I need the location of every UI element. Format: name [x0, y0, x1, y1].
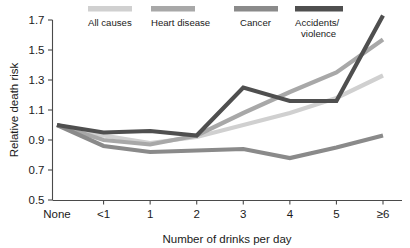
y-tick-label: 1.7	[29, 14, 45, 26]
x-tick-label: 3	[240, 208, 246, 220]
x-tick-label: None	[43, 208, 71, 220]
legend-label-3: Accidents/	[295, 17, 340, 28]
x-tick-label: 5	[333, 208, 339, 220]
legend-label-1: Heart disease	[151, 17, 210, 28]
y-tick-label: 0.7	[29, 164, 45, 176]
legend-label-3-line2: violence	[301, 28, 336, 39]
x-axis-title: Number of drinks per day	[162, 233, 291, 245]
y-tick-label: 1.3	[29, 74, 45, 86]
x-axis: None<112345≥6 Number of drinks per day	[43, 200, 402, 245]
x-tick-label: 1	[147, 208, 153, 220]
series-line-1	[57, 40, 383, 145]
y-tick-label: 0.5	[29, 194, 45, 206]
x-tick-label: ≥6	[377, 208, 390, 220]
legend-swatch-2	[234, 6, 278, 12]
chart-legend: All causes Heart disease Cancer Accident…	[88, 6, 343, 39]
x-tick-label: <1	[97, 208, 110, 220]
legend-swatch-1	[151, 6, 195, 12]
y-tick-label: 0.9	[29, 134, 45, 146]
line-chart: All causes Heart disease Cancer Accident…	[0, 0, 410, 248]
x-tick-label: 2	[194, 208, 200, 220]
legend-label-2: Cancer	[240, 17, 272, 28]
chart-container: All causes Heart disease Cancer Accident…	[0, 0, 410, 248]
legend-swatch-3	[295, 6, 343, 12]
legend-swatch-0	[88, 6, 132, 12]
legend-label-0: All causes	[88, 17, 132, 28]
y-axis: 0.50.70.91.11.31.51.7 Relative death ris…	[8, 14, 53, 206]
y-tick-label: 1.1	[29, 104, 45, 116]
y-tick-group: 0.50.70.91.11.31.51.7	[29, 14, 53, 206]
x-tick-group: None<112345≥6	[43, 200, 389, 220]
y-tick-label: 1.5	[29, 44, 45, 56]
y-axis-title: Relative death risk	[8, 62, 20, 157]
x-tick-label: 4	[287, 208, 294, 220]
